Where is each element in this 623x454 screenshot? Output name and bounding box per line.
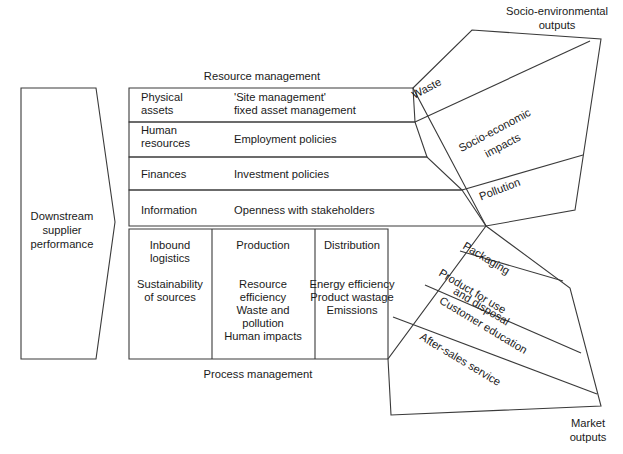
resource-management-table: Physical assets 'Site management' fixed …: [129, 88, 486, 226]
resource-row-information: Information Openness with stakeholders: [129, 190, 486, 226]
downstream-supplier-line1: Downstream: [31, 210, 94, 222]
resource-row-3-detail-line1: Openness with stakeholders: [234, 204, 375, 216]
process-col-0-heading-line1: Inbound: [150, 239, 190, 251]
resource-row-3-category-line1: Information: [141, 204, 197, 216]
process-col-0-item-0: Sustainability: [137, 278, 203, 290]
market-outputs-line2: outputs: [570, 431, 607, 443]
socio-band-0-label: Waste: [410, 75, 443, 100]
process-col-2-item-0: Energy efficiency: [310, 278, 395, 290]
socio-environmental-outputs-shape: Waste Socio-economic impacts Pollution S…: [410, 5, 608, 226]
resource-row-0-category-line2: assets: [141, 104, 174, 116]
diagram-canvas: Downstream supplier performance Resource…: [0, 0, 623, 454]
resource-management-label: Resource management: [204, 70, 321, 82]
process-col-1-heading-line1: Production: [236, 239, 290, 251]
market-band-3-label: After-sales service: [418, 330, 503, 388]
process-col-1-item-1: efficiency: [240, 291, 287, 303]
resource-row-0-detail-line1: 'Site management': [234, 91, 326, 103]
market-band-0-label: Packaging: [461, 240, 512, 277]
process-col-2-item-1: Product wastage: [310, 291, 393, 303]
socio-environmental-outputs-line1: Socio-environmental: [506, 5, 608, 17]
resource-row-1-category-line2: resources: [141, 137, 191, 149]
resource-row-1-detail-line1: Employment policies: [234, 133, 337, 145]
downstream-supplier-line3: performance: [31, 238, 94, 250]
resource-row-physical-assets: Physical assets 'Site management' fixed …: [129, 88, 415, 122]
process-col-0-heading-line2: logistics: [150, 252, 190, 264]
process-col-1-item-0: Resource: [239, 278, 287, 290]
downstream-supplier-line2: supplier: [42, 224, 81, 236]
process-management-label: Process management: [204, 368, 314, 380]
process-column-inbound-logistics: Inbound logistics Sustainability of sour…: [137, 239, 203, 303]
process-col-2-item-2: Emissions: [327, 304, 378, 316]
resource-row-1-category-line1: Human: [141, 124, 177, 136]
resource-row-finances: Finances Investment policies: [129, 157, 462, 190]
process-column-production: Production Resource efficiency Waste and…: [224, 239, 302, 342]
socio-band-2-label: Pollution: [477, 176, 521, 203]
resource-row-2-detail-line1: Investment policies: [234, 168, 330, 180]
socio-environmental-outputs-line2: outputs: [539, 19, 576, 31]
process-col-1-item-2: Waste and: [236, 304, 289, 316]
process-column-distribution: Distribution Energy efficiency Product w…: [310, 239, 395, 316]
process-management-block: Inbound logistics Sustainability of sour…: [129, 229, 395, 359]
resource-row-0-category-line1: Physical: [141, 91, 183, 103]
process-col-1-item-4: Human impacts: [224, 330, 302, 342]
process-col-0-item-1: of sources: [144, 291, 196, 303]
value-chain-diagram: Downstream supplier performance Resource…: [0, 0, 623, 454]
resource-row-2-category-line1: Finances: [141, 168, 187, 180]
downstream-supplier-shape: Downstream supplier performance: [21, 88, 115, 359]
resource-row-human-resources: Human resources Employment policies: [129, 122, 427, 157]
process-col-2-heading-line1: Distribution: [324, 239, 380, 251]
process-col-1-item-3: pollution: [242, 317, 284, 329]
resource-row-0-detail-line2: fixed asset management: [234, 104, 357, 116]
market-outputs-line1: Market: [571, 417, 606, 429]
market-outputs-shape: Packaging Product for use and disposal C…: [388, 226, 607, 443]
